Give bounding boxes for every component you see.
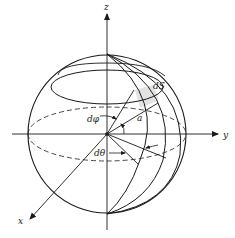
radius-line-1 — [107, 90, 134, 134]
sphere-diagram: z y x dS dφ dθ a — [0, 0, 235, 238]
d-phi-arrow — [100, 116, 116, 119]
surface-element-label: dS — [153, 81, 165, 91]
projection-line-1 — [107, 134, 138, 164]
latitude-circle-upper-2 — [58, 63, 165, 76]
y-axis-label: y — [222, 130, 229, 140]
projection-line-2 — [107, 134, 166, 158]
sphere-svg: z y x dS dφ dθ a — [0, 0, 235, 238]
x-axis — [30, 134, 107, 219]
d-phi-label: dφ — [87, 114, 100, 124]
d-theta-label: dθ — [94, 148, 106, 158]
radius-label: a — [137, 113, 142, 123]
projection-angle-arrow — [146, 145, 158, 148]
x-axis-label: x — [18, 216, 23, 226]
origin-point — [105, 132, 109, 136]
z-axis-label: z — [103, 2, 109, 12]
